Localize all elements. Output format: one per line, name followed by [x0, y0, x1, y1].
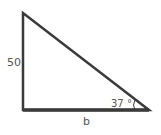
base-label: b	[83, 116, 90, 127]
right-triangle	[23, 13, 149, 110]
triangle-diagram	[0, 0, 161, 135]
vertical-side-label: 50	[7, 57, 21, 68]
angle-arc	[134, 100, 136, 110]
angle-label: 37 °	[111, 98, 132, 109]
